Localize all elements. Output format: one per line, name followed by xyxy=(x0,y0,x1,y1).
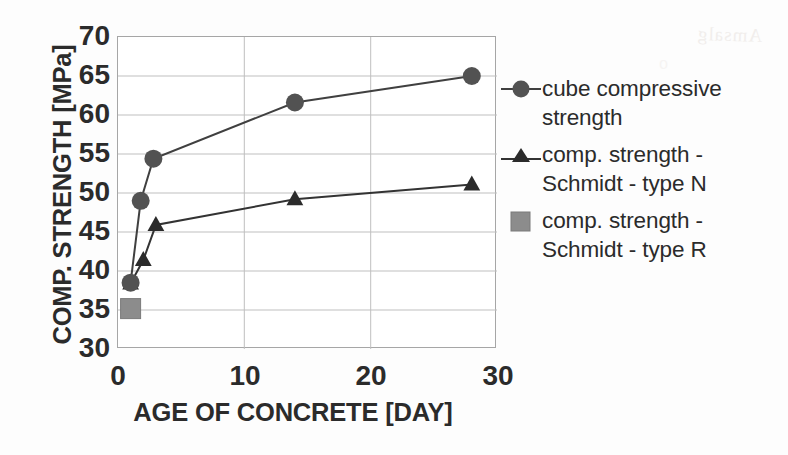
y-tick-label: 65 xyxy=(36,61,110,89)
y-tick-label: 55 xyxy=(36,139,110,167)
x-axis-tick-labels: 0 10 20 30 xyxy=(0,362,788,398)
y-tick-label: 35 xyxy=(36,295,110,323)
legend-key-triangle xyxy=(500,140,542,170)
legend-entry-cube-compressive-strength[interactable]: cube compressive strength xyxy=(500,74,788,132)
legend-key-square xyxy=(500,206,542,236)
plot-svg xyxy=(118,37,497,349)
x-tick-label: 10 xyxy=(210,362,280,390)
plot-area xyxy=(117,36,496,348)
legend-label: cube compressive strength xyxy=(542,74,788,132)
square-marker-icon xyxy=(500,206,542,236)
x-tick-label: 30 xyxy=(463,362,533,390)
legend-key-circle xyxy=(500,74,542,104)
y-tick-label: 40 xyxy=(36,256,110,284)
legend-entry-schmidt-type-n[interactable]: comp. strength - Schmidt - type N xyxy=(500,140,788,198)
scan-bleed-artifact-secondary: o xyxy=(659,55,668,73)
chart-legend: cube compressive strength comp. strength… xyxy=(500,74,788,272)
scan-bleed-artifact: Amsalg xyxy=(697,23,763,47)
y-tick-label: 30 xyxy=(36,334,110,362)
legend-label: comp. strength - Schmidt - type R xyxy=(542,206,788,264)
series-cube-compressive-strength-markers xyxy=(122,67,481,292)
x-tick-label: 20 xyxy=(336,362,406,390)
y-tick-label: 50 xyxy=(36,178,110,206)
y-tick-label: 70 xyxy=(36,22,110,50)
series-schmidt-type-r-markers xyxy=(121,299,141,319)
figure-canvas: Amsalg o COMP. STRENGTH [MPa] 70 65 60 5… xyxy=(0,0,788,455)
x-axis-title: AGE OF CONCRETE [DAY] xyxy=(0,398,586,427)
legend-label: comp. strength - Schmidt - type N xyxy=(542,140,788,198)
x-tick-label: 0 xyxy=(83,362,153,390)
horizontal-gridlines xyxy=(118,76,497,310)
legend-entry-schmidt-type-r[interactable]: comp. strength - Schmidt - type R xyxy=(500,206,788,264)
y-tick-label: 60 xyxy=(36,100,110,128)
triangle-marker-icon xyxy=(500,140,542,170)
series-schmidt-type-n-line xyxy=(131,184,472,283)
circle-marker-icon xyxy=(500,74,542,104)
y-tick-label: 45 xyxy=(36,217,110,245)
